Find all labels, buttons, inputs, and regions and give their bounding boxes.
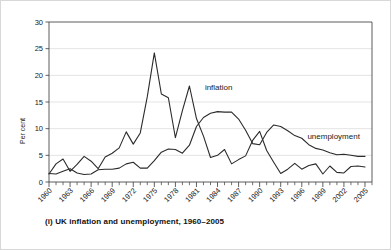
y-tick-label: 0 bbox=[39, 178, 43, 187]
y-tick-label: 20 bbox=[35, 71, 43, 80]
x-axis-ticks bbox=[49, 182, 372, 187]
data-series-lines bbox=[49, 53, 365, 175]
y-tick-label: 15 bbox=[35, 98, 43, 107]
x-tick-label: 1975 bbox=[141, 186, 159, 204]
y-tick-label: 25 bbox=[35, 44, 43, 53]
series-line-inflation bbox=[49, 53, 365, 174]
y-tick-label: 10 bbox=[35, 124, 43, 133]
x-tick-label: 1960 bbox=[36, 186, 54, 204]
x-axis-tick-labels: 1960196319661969197219751978198119841987… bbox=[36, 186, 370, 204]
x-tick-label: 1984 bbox=[204, 186, 222, 204]
y-axis-tick-labels: 051015202530 bbox=[35, 18, 43, 187]
x-tick-label: 1972 bbox=[120, 186, 138, 204]
x-tick-label: 1981 bbox=[183, 186, 201, 204]
y-axis-title: Per cent bbox=[19, 118, 26, 144]
y-axis-ticks bbox=[46, 22, 50, 182]
x-tick-label: 1987 bbox=[225, 186, 243, 204]
series-label-unemployment: unemployment bbox=[307, 132, 360, 141]
x-tick-label: 1990 bbox=[246, 186, 264, 204]
x-tick-label: 1969 bbox=[99, 186, 117, 204]
x-tick-label: 2005 bbox=[352, 186, 370, 204]
x-tick-label: 1963 bbox=[57, 186, 75, 204]
series-label-inflation: inflation bbox=[205, 83, 233, 92]
x-tick-label: 1978 bbox=[162, 186, 180, 204]
x-tick-label: 2002 bbox=[331, 186, 349, 204]
line-chart: 051015202530 196019631966196919721975197… bbox=[1, 1, 391, 250]
y-tick-label: 5 bbox=[39, 151, 43, 160]
x-tick-label: 1996 bbox=[289, 186, 307, 204]
x-tick-label: 1999 bbox=[310, 186, 328, 204]
y-tick-label: 30 bbox=[35, 18, 43, 27]
figure-container: 051015202530 196019631966196919721975197… bbox=[0, 0, 391, 250]
figure-caption: (i) UK inflation and unemployment, 1960–… bbox=[45, 217, 224, 226]
series-line-unemployment bbox=[49, 112, 365, 175]
x-tick-label: 1966 bbox=[78, 186, 96, 204]
x-tick-label: 1993 bbox=[267, 186, 285, 204]
